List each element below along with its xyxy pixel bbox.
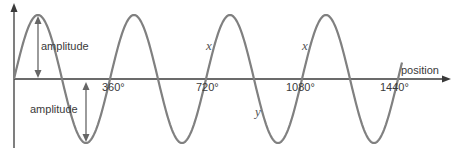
- x-axis-arrowhead-icon: [442, 76, 451, 83]
- amplitude-label-upper: amplitude: [41, 40, 89, 52]
- x-axis-label: position: [401, 64, 439, 76]
- point-label-y: y: [253, 104, 261, 119]
- tick-label-360: 360°: [102, 81, 125, 93]
- tick-label-1080: 1080°: [286, 81, 315, 93]
- arrowhead-up-icon: [83, 82, 90, 90]
- y-axis-arrowhead-icon: [11, 3, 18, 12]
- amplitude-label-lower: amplitude: [30, 103, 78, 115]
- tick-label-1440: 1440°: [380, 81, 409, 93]
- point-label-x-first: x: [205, 38, 212, 53]
- tick-label-720: 720°: [196, 81, 219, 93]
- sine-wave-diagram: amplitude amplitude 360° 720° 1080° 1440…: [0, 0, 452, 152]
- point-label-x-second: x: [301, 38, 308, 53]
- arrowhead-down-icon: [35, 70, 42, 78]
